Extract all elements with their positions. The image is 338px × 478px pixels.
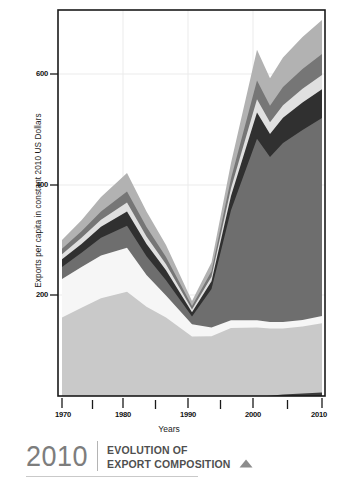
x-tick-label-2000: 2000 bbox=[240, 410, 266, 419]
footer-year: 2010 bbox=[26, 439, 97, 473]
x-tick-label-2010: 2010 bbox=[306, 410, 332, 419]
triangle-icon bbox=[239, 459, 253, 468]
stacked-area-chart: 200 400 600 1970 1980 1990 2000 2010 Exp… bbox=[0, 0, 338, 432]
chart-canvas bbox=[0, 0, 338, 432]
footer-title-block: 2010 EVOLUTION OF EXPORT COMPOSITION bbox=[26, 440, 316, 478]
above-plot-mask bbox=[55, 0, 330, 10]
footer-divider bbox=[97, 441, 98, 471]
x-tick-label-1980: 1980 bbox=[110, 410, 136, 419]
footer-title: EVOLUTION OF EXPORT COMPOSITION bbox=[107, 442, 230, 470]
x-tick-label-1990: 1990 bbox=[175, 410, 201, 419]
footer-title-line-2: EXPORT COMPOSITION bbox=[107, 456, 230, 470]
footer-rule bbox=[26, 476, 198, 477]
y-tick-marks bbox=[50, 74, 58, 295]
y-axis-title: Exports per capita in constant 2010 US D… bbox=[34, 71, 43, 331]
figure-root: 200 400 600 1970 1980 1990 2000 2010 Exp… bbox=[0, 0, 338, 478]
x-axis-title: Years bbox=[0, 424, 338, 434]
footer-title-line-1: EVOLUTION OF bbox=[107, 442, 230, 456]
x-tick-label-1970: 1970 bbox=[50, 410, 76, 419]
